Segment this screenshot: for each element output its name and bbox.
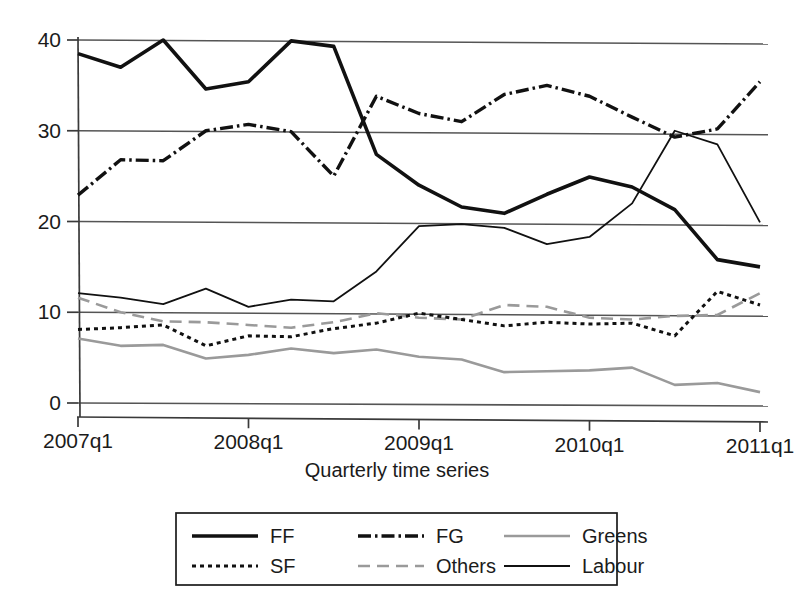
y-tick-label-10: 10 (38, 300, 61, 323)
x-tick-label-2007q1: 2007q1 (43, 429, 113, 452)
x-tick-label-2008q1: 2008q1 (213, 430, 283, 453)
x-tick-label-2011q1: 2011q1 (726, 434, 794, 457)
x-tick-label-2010q1: 2010q1 (554, 433, 624, 456)
y-tick-label-0: 0 (49, 391, 61, 414)
chart-background (0, 0, 794, 611)
legend-label-labour: Labour (582, 555, 645, 577)
legend-label-others: Others (436, 555, 496, 577)
legend-label-greens: Greens (582, 525, 648, 547)
y-tick-label-40: 40 (38, 28, 61, 51)
legend-label-sf: SF (270, 555, 296, 577)
y-tick-label-20: 20 (38, 210, 61, 233)
x-tick-label-2009q1: 2009q1 (384, 431, 454, 454)
legend-label-fg: FG (436, 525, 464, 547)
y-tick-label-30: 30 (38, 119, 61, 142)
chart-figure: 010203040 2007q12008q12009q12010q12011q1… (0, 0, 794, 611)
x-axis-title: Quarterly time series (305, 459, 490, 481)
legend-label-ff: FF (270, 525, 294, 547)
line-chart-canvas: 010203040 2007q12008q12009q12010q12011q1… (0, 0, 794, 611)
